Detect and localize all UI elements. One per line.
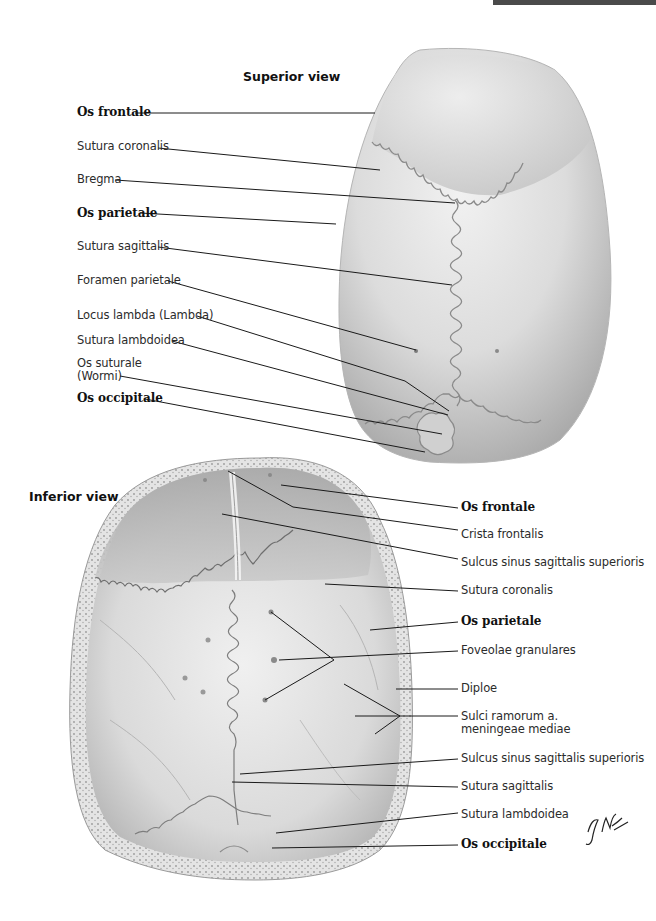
label-foveolae-granulares: Foveolae granulares: [461, 644, 576, 657]
label-sutura-coronalis-superior: Sutura coronalis: [77, 140, 169, 153]
superior-view-skull: [339, 48, 611, 463]
label-sutura-lambdoidea-inferior: Sutura lambdoidea: [461, 808, 569, 821]
label-sutura-lambdoidea-superior: Sutura lambdoidea: [77, 334, 185, 347]
label-os-occipitale-superior: Os occipitale: [77, 392, 163, 405]
label-diploe: Diploe: [461, 682, 497, 695]
label-meningeae-mediae: meningeae mediae: [461, 723, 571, 736]
inferior-view-skull: [70, 458, 413, 880]
label-os-frontale-superior: Os frontale: [77, 106, 151, 119]
label-sutura-sagittalis-superior: Sutura sagittalis: [77, 240, 169, 253]
label-sulcus-sinus-sagittalis-sup-1: Sulcus sinus sagittalis superioris: [461, 556, 644, 569]
label-sulcus-sinus-sagittalis-sup-2: Sulcus sinus sagittalis superioris: [461, 752, 644, 765]
label-os-parietale-superior: Os parietale: [77, 207, 157, 220]
label-bregma: Bregma: [77, 173, 121, 186]
label-sutura-coronalis-inferior: Sutura coronalis: [461, 584, 553, 597]
label-os-parietale-inferior: Os parietale: [461, 615, 541, 628]
label-locus-lambda: Locus lambda (Lambda): [77, 309, 213, 322]
label-crista-frontalis: Crista frontalis: [461, 528, 543, 541]
label-os-frontale-inferior: Os frontale: [461, 501, 535, 514]
label-wormi: (Wormi): [77, 370, 122, 383]
superior-view-title: Superior view: [243, 69, 340, 84]
label-sutura-sagittalis-inferior: Sutura sagittalis: [461, 780, 553, 793]
inferior-view-title: Inferior view: [29, 489, 118, 504]
label-foramen-parietale: Foramen parietale: [77, 274, 181, 287]
netter-signature: [586, 814, 628, 845]
label-os-occipitale-inferior: Os occipitale: [461, 838, 547, 851]
